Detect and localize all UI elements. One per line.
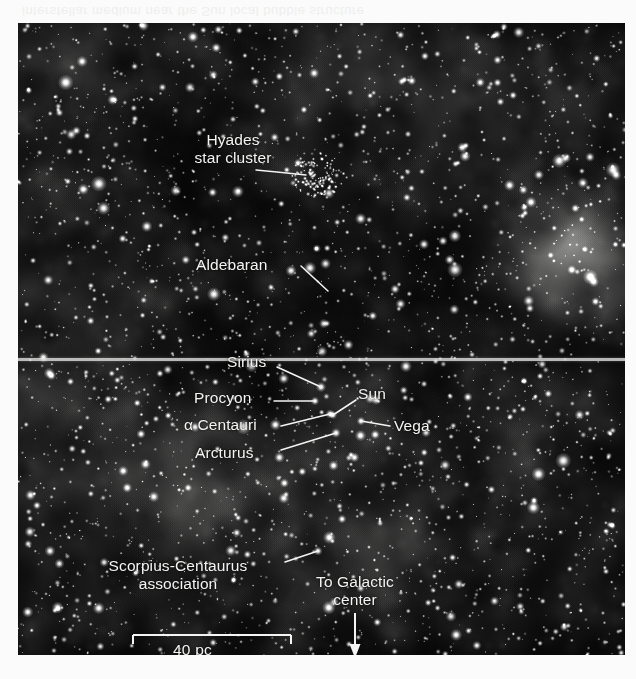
label-sirius-line-1: Sirius — [227, 353, 281, 371]
label-galactic-center-line-1: To Galactic — [296, 573, 414, 591]
label-aldebaran: Aldebaran — [196, 256, 286, 274]
label-arcturus: Arcturus — [195, 444, 275, 462]
label-sirius: Sirius — [227, 353, 281, 371]
label-scorpius-centaurus-line-1: Scorpius-Centaurus — [78, 557, 278, 575]
label-alpha-centauri: α Centauri — [184, 416, 276, 434]
label-procyon: Procyon — [194, 389, 269, 407]
scale-bar-caption: 40 pc — [173, 641, 212, 655]
label-galactic-center-line-2: center — [296, 591, 414, 609]
label-procyon-line-1: Procyon — [194, 389, 269, 407]
scan-bleed-ghost-text: interstellar medium near the Sun local b… — [22, 1, 582, 19]
label-hyades-line-1: Hyades — [168, 131, 298, 149]
label-hyades-line-2: star cluster — [168, 149, 298, 167]
label-galactic-center: To Galacticcenter — [296, 573, 414, 610]
label-vega: Vega — [394, 417, 440, 435]
label-aldebaran-line-1: Aldebaran — [196, 256, 286, 274]
label-sun: Sun — [358, 385, 398, 403]
label-sun-line-1: Sun — [358, 385, 398, 403]
label-arcturus-line-1: Arcturus — [195, 444, 275, 462]
label-scorpius-centaurus-line-2: association — [78, 575, 278, 593]
sky-plate: Hyadesstar clusterAldebaranSiriusProcyon… — [18, 23, 625, 655]
label-hyades: Hyadesstar cluster — [168, 131, 298, 168]
label-scorpius-centaurus: Scorpius-Centaurusassociation — [78, 557, 278, 594]
figure-root: interstellar medium near the Sun local b… — [0, 0, 636, 679]
label-vega-line-1: Vega — [394, 417, 440, 435]
label-alpha-centauri-line-1: α Centauri — [184, 416, 276, 434]
